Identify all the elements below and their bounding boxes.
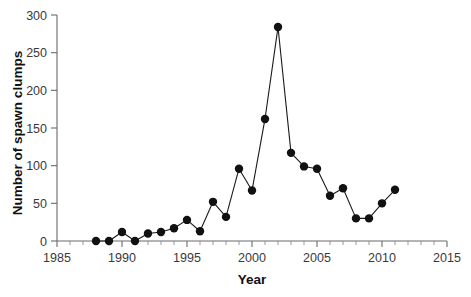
x-axis: 1985199019952000200520102015 bbox=[43, 241, 461, 265]
data-point bbox=[391, 186, 399, 194]
data-series bbox=[92, 23, 399, 245]
data-point bbox=[261, 115, 269, 123]
data-point bbox=[196, 227, 204, 235]
data-point bbox=[300, 162, 308, 170]
x-axis-title: Year bbox=[238, 272, 267, 287]
y-axis: 050100150200250300 bbox=[26, 9, 57, 249]
y-tick-group: 050100150200250300 bbox=[26, 9, 57, 249]
x-tick-group: 1985199019952000200520102015 bbox=[43, 241, 461, 265]
data-point bbox=[105, 237, 113, 245]
y-tick-label: 100 bbox=[26, 159, 47, 173]
y-tick-label: 50 bbox=[33, 197, 47, 211]
y-tick-label: 250 bbox=[26, 46, 47, 60]
data-point bbox=[313, 164, 321, 172]
x-tick-label: 2015 bbox=[433, 251, 461, 265]
x-tick-label: 2005 bbox=[303, 251, 331, 265]
data-point bbox=[352, 214, 360, 222]
y-tick-label: 0 bbox=[40, 235, 47, 249]
y-axis-title: Number of spawn clumps bbox=[10, 51, 25, 215]
data-point bbox=[274, 23, 282, 31]
x-tick-label: 2000 bbox=[238, 251, 266, 265]
data-point bbox=[157, 228, 165, 236]
data-point bbox=[131, 237, 139, 245]
data-point bbox=[222, 213, 230, 221]
data-point bbox=[118, 228, 126, 236]
data-point bbox=[92, 237, 100, 245]
x-tick-label: 1995 bbox=[173, 251, 201, 265]
data-point bbox=[326, 192, 334, 200]
data-point bbox=[209, 198, 217, 206]
x-tick-label: 2010 bbox=[368, 251, 396, 265]
data-point bbox=[378, 199, 386, 207]
data-point bbox=[287, 149, 295, 157]
data-point bbox=[144, 229, 152, 237]
chart-figure: Number of spawn clumps Year 050100150200… bbox=[0, 0, 471, 297]
data-point bbox=[248, 186, 256, 194]
x-tick-label: 1985 bbox=[43, 251, 71, 265]
y-tick-label: 150 bbox=[26, 122, 47, 136]
y-tick-label: 200 bbox=[26, 84, 47, 98]
line-chart: Number of spawn clumps Year 050100150200… bbox=[0, 0, 471, 297]
y-tick-label: 300 bbox=[26, 9, 47, 23]
series-line bbox=[96, 27, 395, 241]
data-point bbox=[339, 184, 347, 192]
data-point bbox=[365, 214, 373, 222]
data-point bbox=[170, 224, 178, 232]
data-point bbox=[183, 216, 191, 224]
x-tick-label: 1990 bbox=[108, 251, 136, 265]
data-point bbox=[235, 164, 243, 172]
